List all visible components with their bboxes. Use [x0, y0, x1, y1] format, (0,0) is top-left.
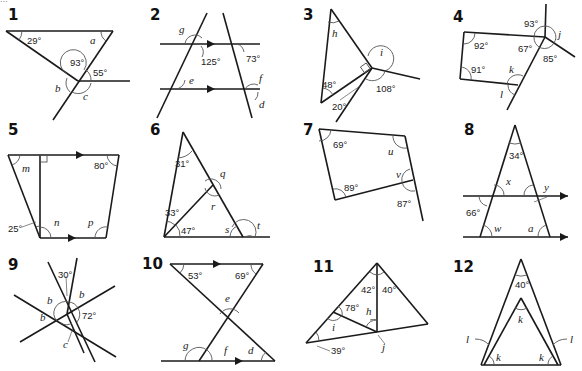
problem-3: 3 48° 20° 108° h i — [290, 0, 435, 125]
variable-label: j — [556, 28, 561, 40]
variable-label: q — [220, 167, 226, 179]
variable-label: p — [87, 216, 94, 228]
problem-1: 1 29° 93° 55° a b c — [0, 0, 145, 120]
variable-label: b — [79, 288, 85, 300]
variable-label: k — [518, 313, 524, 325]
variable-label: h — [366, 305, 372, 317]
angle-label: 25° — [8, 223, 23, 234]
variable-label: g — [179, 23, 185, 35]
problem-6-diagram: 31° 33° 47° q r s t — [145, 125, 290, 250]
angle-label: 40° — [382, 284, 397, 295]
problem-3-diagram: 48° 20° 108° h i — [290, 0, 435, 125]
problem-11: 11 42° 40° 78° 39° i h j — [290, 250, 435, 371]
problem-7-diagram: 69° 89° 87° u v — [290, 125, 435, 250]
variable-label: y — [543, 181, 549, 193]
angle-label: 48° — [322, 79, 337, 90]
angle-label: 29° — [27, 35, 42, 46]
variable-label: n — [54, 216, 60, 228]
angle-label: 53° — [188, 270, 203, 281]
variable-label: r — [211, 200, 216, 212]
variable-label: b — [55, 82, 61, 94]
angle-label: 33° — [165, 207, 180, 218]
angle-label: 20° — [332, 101, 347, 112]
angle-label: 67° — [518, 43, 533, 54]
angle-label: 34° — [509, 150, 524, 161]
angle-label: 69° — [333, 139, 348, 150]
problem-6: 6 31° 33° 47° q r s t — [145, 125, 290, 250]
angle-label: 78° — [345, 302, 360, 313]
problem-4-diagram: 92° 93° 67° 91° 85° j k l — [430, 0, 582, 125]
angle-label: 73° — [246, 53, 261, 64]
problem-1-diagram: 29° 93° 55° a b c — [0, 0, 145, 120]
variable-label: h — [332, 27, 338, 39]
variable-label: l — [466, 333, 469, 345]
angle-label: 40° — [515, 279, 530, 290]
variable-label: c — [63, 338, 68, 350]
problem-5-diagram: 80° 25° m n p — [0, 125, 145, 250]
angle-label: 87° — [397, 198, 412, 209]
variable-label: j — [380, 341, 385, 353]
problem-12-diagram: 40° k l l k k — [430, 250, 582, 371]
variable-label: e — [225, 292, 230, 304]
angle-label: 55° — [93, 67, 108, 78]
variable-label: d — [259, 98, 265, 110]
variable-label: f — [259, 72, 264, 84]
variable-label: v — [396, 168, 401, 180]
variable-label: w — [494, 222, 502, 234]
angle-label: 66° — [466, 207, 481, 218]
angle-label: 31° — [175, 158, 190, 169]
variable-label: a — [90, 34, 96, 46]
problem-8-diagram: 34° 66° x y w a — [430, 125, 582, 250]
problem-8: 8 34° 66° x y w a — [430, 125, 582, 250]
variable-label: t — [257, 219, 261, 231]
variable-label: a — [528, 222, 534, 234]
angle-label: 69° — [235, 270, 250, 281]
problem-12: 12 40° k l l k k — [430, 250, 582, 371]
angle-label: 42° — [361, 284, 376, 295]
variable-label: f — [224, 344, 229, 356]
angle-label: 93° — [70, 57, 85, 68]
problem-2: 2 125° 73° g e f d — [145, 0, 290, 120]
variable-label: i — [332, 321, 335, 333]
angle-label: 39° — [331, 345, 346, 356]
variable-label: l — [500, 88, 503, 100]
problem-10: 10 53° 69° e g f d — [145, 250, 290, 371]
variable-label: e — [189, 74, 194, 86]
angle-label: 47° — [181, 225, 196, 236]
variable-label: i — [380, 46, 383, 58]
angle-label: 89° — [344, 182, 359, 193]
variable-label: d — [248, 344, 254, 356]
variable-label: k — [539, 351, 545, 363]
problem-5: 5 80° 25° m n p — [0, 125, 145, 250]
problem-2-diagram: 125° 73° g e f d — [145, 0, 290, 120]
variable-label: c — [83, 90, 88, 102]
angle-label: 93° — [524, 18, 539, 29]
variable-label: m — [22, 162, 30, 174]
variable-label: x — [505, 175, 511, 187]
angle-label: 72° — [82, 310, 97, 321]
problem-9-diagram: 30° 72° b b b c — [0, 250, 145, 371]
problem-7: 7 69° 89° 87° u v — [290, 125, 435, 250]
variable-label: k — [509, 63, 515, 75]
variable-label: l — [570, 333, 573, 345]
variable-label: k — [496, 351, 502, 363]
angle-label: 30° — [58, 269, 73, 280]
angle-label: 108° — [376, 83, 396, 94]
angle-label: 125° — [201, 56, 221, 67]
angle-label: 85° — [543, 53, 558, 64]
problem-9: 9 30° 72° b b b c — [0, 250, 145, 371]
problem-4: 4 92° 93° 67° 91° 85° j k l — [430, 0, 582, 125]
variable-label: g — [183, 339, 189, 351]
variable-label: s — [225, 223, 229, 235]
variable-label: u — [388, 145, 394, 157]
angle-label: 91° — [471, 64, 486, 75]
angle-label: 80° — [94, 160, 109, 171]
variable-label: b — [47, 294, 53, 306]
variable-label: b — [40, 311, 46, 323]
problem-10-diagram: 53° 69° e g f d — [145, 250, 290, 371]
angle-label: 92° — [474, 40, 489, 51]
problem-11-diagram: 42° 40° 78° 39° i h j — [290, 250, 435, 371]
